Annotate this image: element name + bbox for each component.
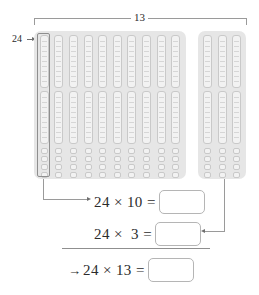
unit-cube — [128, 156, 135, 162]
unit-cube — [99, 156, 106, 162]
unit-cube — [85, 172, 92, 178]
block-column — [113, 35, 122, 178]
loose-unit-stack — [128, 148, 135, 178]
block-column — [157, 35, 166, 178]
unit-cube — [70, 172, 77, 178]
ten-rod — [171, 35, 180, 88]
bracket-label-13: 13 — [131, 12, 148, 23]
ten-rod — [203, 91, 212, 144]
unit-cube — [204, 156, 211, 162]
rod-unit-segment — [129, 82, 134, 86]
unit-cube — [85, 156, 92, 162]
unit-cube — [158, 164, 165, 170]
rod-unit-segment — [234, 138, 239, 142]
side-label-24: 24 — [12, 34, 22, 44]
unit-cube — [70, 156, 77, 162]
unit-cube — [55, 148, 62, 154]
ten-rod — [171, 91, 180, 144]
block-column — [127, 35, 136, 178]
unit-cube — [41, 148, 48, 154]
unit-cube — [99, 164, 106, 170]
unit-cube — [85, 164, 92, 170]
loose-unit-stack — [41, 148, 48, 178]
loose-unit-stack — [85, 148, 92, 178]
rod-unit-segment — [144, 138, 149, 142]
ten-rod — [127, 35, 136, 88]
rod-unit-segment — [159, 82, 164, 86]
ten-rod — [218, 35, 227, 88]
unit-cube — [70, 164, 77, 170]
unit-cube — [41, 156, 48, 162]
unit-cube — [114, 172, 121, 178]
rod-unit-segment — [86, 82, 91, 86]
unit-cube — [85, 148, 92, 154]
unit-cube — [99, 148, 106, 154]
ten-rod — [203, 35, 212, 88]
unit-cube — [172, 156, 179, 162]
unit-cube — [114, 156, 121, 162]
unit-cube — [143, 156, 150, 162]
unit-cube — [41, 164, 48, 170]
block-column — [54, 35, 63, 178]
rod-unit-segment — [205, 138, 210, 142]
block-column — [98, 35, 107, 178]
unit-cube — [219, 156, 226, 162]
rod-unit-segment — [71, 82, 76, 86]
rod-unit-segment — [129, 138, 134, 142]
unit-cube — [219, 148, 226, 154]
unit-cube — [41, 172, 48, 178]
equation-row-3: → 24 × 13 = — [68, 258, 194, 282]
block-column — [142, 35, 151, 178]
equation-3-answer-box[interactable] — [148, 258, 194, 282]
ten-rod — [54, 91, 63, 144]
connector-left-horizontal — [43, 199, 88, 200]
ten-rod — [40, 91, 49, 144]
unit-cube — [233, 172, 240, 178]
ten-rod — [84, 91, 93, 144]
rod-unit-segment — [100, 138, 105, 142]
loose-unit-stack — [55, 148, 62, 178]
connector-right-arrowhead — [201, 229, 205, 233]
unit-cube — [172, 164, 179, 170]
rod-unit-segment — [71, 138, 76, 142]
unit-cube — [219, 172, 226, 178]
unit-cube — [128, 172, 135, 178]
unit-cube — [158, 148, 165, 154]
loose-unit-stack — [143, 148, 150, 178]
equation-row-1: 24 × 10 = — [92, 190, 205, 214]
unit-cube — [158, 172, 165, 178]
rod-unit-segment — [86, 138, 91, 142]
block-column — [40, 35, 49, 178]
rod-unit-segment — [220, 82, 225, 86]
unit-cube — [204, 172, 211, 178]
block-column — [218, 35, 227, 178]
equation-1-expression: 24 × 10 = — [94, 195, 156, 210]
unit-cube — [70, 148, 77, 154]
loose-unit-stack — [233, 148, 240, 178]
ten-rod — [232, 35, 241, 88]
equation-1-answer-box[interactable] — [159, 190, 205, 214]
rod-unit-segment — [173, 138, 178, 142]
block-column — [203, 35, 212, 178]
unit-cube — [172, 148, 179, 154]
rod-unit-segment — [234, 82, 239, 86]
unit-cube — [219, 164, 226, 170]
rod-unit-segment — [220, 138, 225, 142]
unit-cube — [55, 172, 62, 178]
ten-rod — [98, 91, 107, 144]
unit-cube — [99, 172, 106, 178]
rod-unit-segment — [56, 138, 61, 142]
sum-divider-rule — [62, 248, 210, 249]
rod-unit-segment — [42, 82, 47, 86]
unit-cube — [172, 172, 179, 178]
equation-2-answer-box[interactable] — [155, 222, 201, 246]
ten-rod — [40, 35, 49, 88]
unit-cube — [55, 164, 62, 170]
block-column — [69, 35, 78, 178]
block-column — [84, 35, 93, 178]
connector-right-vertical — [224, 179, 225, 232]
block-column — [232, 35, 241, 178]
rod-unit-segment — [100, 82, 105, 86]
unit-cube — [143, 172, 150, 178]
ten-rod — [157, 91, 166, 144]
